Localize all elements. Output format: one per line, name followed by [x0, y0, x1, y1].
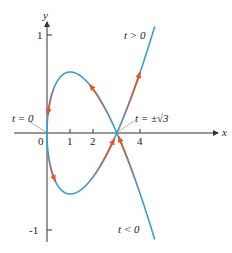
t-positive-label: t > 0: [124, 29, 146, 41]
x-tick-4: 4: [137, 135, 143, 147]
y-tick-neg1: -1: [29, 224, 38, 236]
x-tick-1: 1: [67, 135, 73, 147]
direction-arrow-icon: [135, 72, 141, 79]
t-negative-label: t < 0: [118, 223, 140, 235]
x-tick-2: 2: [90, 135, 96, 147]
y-tick-1: 1: [37, 29, 43, 41]
parametric-curve-figure: x y 0 1 2 4 1 -1 t = 0 t = ±√3 t > 0 t <…: [0, 0, 232, 253]
x-axis-label: x: [221, 126, 227, 138]
y-axis-label: y: [42, 9, 48, 21]
t-sqrt3-label: t = ±√3: [135, 112, 169, 124]
x-tick-0: 0: [38, 135, 44, 147]
x-ticks: [70, 129, 140, 133]
t-zero-label: t = 0: [12, 112, 34, 124]
plot-canvas: x y 0 1 2 4 1 -1 t = 0 t = ±√3 t > 0 t <…: [0, 0, 232, 253]
